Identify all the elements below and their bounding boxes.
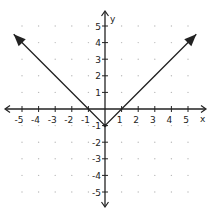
grid-dot [21,75,22,76]
grid-dot [171,125,172,126]
grid-dot [21,25,22,26]
y-axis-label: y [110,14,116,24]
grid-dot [38,92,39,93]
grid-dot [138,175,139,176]
x-axis-label: x [200,114,206,124]
grid-dot [38,42,39,43]
grid-dot [154,42,155,43]
grid-dot [55,142,56,143]
grid-dot [38,142,39,143]
grid-dot [171,142,172,143]
grid-dot [88,175,89,176]
x-tick-label: 5 [183,115,189,125]
grid-dot [138,25,139,26]
grid-dot [88,59,89,60]
grid-dot [21,175,22,176]
grid-dot [138,142,139,143]
y-tick-label: -5 [92,188,101,198]
grid-dot [88,75,89,76]
grid-dot [121,59,122,60]
grid-dot [71,175,72,176]
grid-dot [171,42,172,43]
grid-dot [55,158,56,159]
x-tick-label: 4 [167,115,173,125]
grid-dot [121,92,122,93]
grid-dot [154,25,155,26]
grid-dot [71,158,72,159]
grid-dot [88,191,89,192]
grid-dot [55,42,56,43]
grid-dot [21,92,22,93]
grid-dot [187,59,188,60]
grid-dot [38,191,39,192]
y-tick-label: 1 [95,88,101,98]
grid-dot [154,59,155,60]
grid-dot [171,191,172,192]
y-tick-label: -2 [92,138,101,148]
grid-dot [154,191,155,192]
grid-dot [38,75,39,76]
grid-dot [88,142,89,143]
grid-dot [121,125,122,126]
x-tick-label: -1 [81,115,90,125]
grid-dot [38,25,39,26]
grid-dot [21,158,22,159]
grid-dot [88,42,89,43]
grid-dot [154,158,155,159]
y-tick-label: -4 [92,171,101,181]
grid-dot [21,142,22,143]
grid-dot [154,92,155,93]
grid-dot [21,125,22,126]
grid-dot [187,158,188,159]
y-tick-label: -1 [92,121,101,131]
grid-dot [121,42,122,43]
y-tick-label: 4 [95,38,101,48]
grid-dot [121,191,122,192]
grid-dot [171,75,172,76]
axes [5,11,206,207]
grid-dot [171,92,172,93]
grid-dot [21,59,22,60]
y-tick-label: 2 [95,71,101,81]
x-tick-label: -4 [31,115,40,125]
x-tick-label: -3 [48,115,57,125]
grid-dot [38,158,39,159]
grid-dot [88,25,89,26]
y-tick-label: 3 [95,55,101,65]
grid-dot [138,42,139,43]
grid-dot [55,125,56,126]
x-tick-label: -2 [64,115,73,125]
grid-dot [138,75,139,76]
x-tick-label: 3 [150,115,156,125]
grid-dot [71,42,72,43]
grid-dot [71,142,72,143]
grid-dot [171,25,172,26]
grid-dot [187,75,188,76]
grid-dot [55,175,56,176]
grid-dot [171,175,172,176]
grid-dot [187,125,188,126]
grid-dot [55,92,56,93]
grid-dot [187,175,188,176]
grid-dot [138,158,139,159]
grid-dot [154,125,155,126]
grid-dot [121,142,122,143]
grid-dot [88,158,89,159]
grid-dot [138,191,139,192]
vertex-point [103,124,106,127]
grid-dot [38,125,39,126]
x-tick-label: -5 [15,115,24,125]
grid-dot [138,125,139,126]
grid-dot [121,175,122,176]
x-tick-label: 1 [117,115,123,125]
grid-dot [88,92,89,93]
grid-dot [171,158,172,159]
grid-dot [121,75,122,76]
coordinate-plane: -5-4-3-2-11234554321-1-2-3-4-5 x y [0,0,211,217]
grid-dot [187,142,188,143]
grid-dot [154,142,155,143]
y-tick-label: -3 [92,154,101,164]
grid-dot [187,25,188,26]
grid-dot [138,59,139,60]
grid-dot [121,25,122,26]
